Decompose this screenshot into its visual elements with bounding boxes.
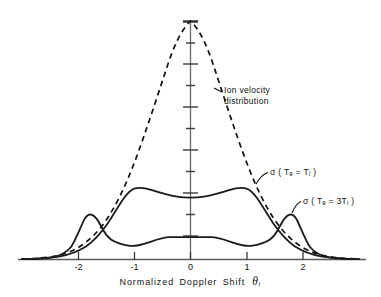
leader-line-sigma-te-3ti	[292, 202, 301, 214]
thomson-scattering-figure: Ion velocity distribution σ ( Tₑ = Tᵢ ) …	[0, 0, 381, 297]
x-axis-title-text: Normalized Doppler Shift	[120, 277, 246, 287]
x-tick-label-neg1: -1	[130, 262, 138, 272]
x-axis-title-symbol: θᵢ	[252, 275, 261, 287]
annotation-sigma-te-eq-3ti: σ ( Tₑ = 3Tᵢ )	[303, 196, 355, 206]
ion-dist-line1: Ion velocity	[224, 85, 270, 96]
plot-canvas	[0, 0, 381, 297]
annotation-ion-velocity-distribution: Ion velocity distribution	[224, 85, 270, 107]
ion-dist-line2: distribution	[224, 96, 270, 107]
x-tick-label-zero: 0	[188, 262, 193, 272]
x-tick-label-pos1: 1	[244, 262, 249, 272]
x-tick-label-pos2: 2	[300, 262, 305, 272]
x-axis-title: Normalized Doppler Shiftθᵢ	[120, 275, 262, 287]
annotation-sigma-te-eq-ti: σ ( Tₑ = Tᵢ )	[270, 167, 316, 177]
x-tick-label-neg2: -2	[74, 262, 82, 272]
leader-line-sigma-te-ti	[256, 173, 268, 185]
